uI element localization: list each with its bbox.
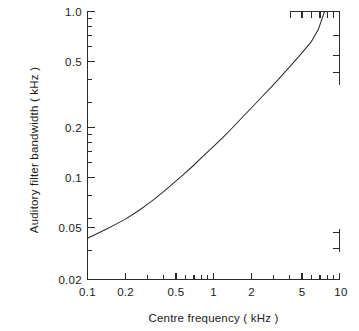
x-label-1: 1 [210,286,217,298]
x-label-5: 5 [299,286,306,298]
y-tick-labels: 1.0 0.5 0.2 0.1 0.05 0.02 [58,6,82,287]
chart-figure: 1.0 0.5 0.2 0.1 0.05 0.02 0.1 0.2 0.5 1 … [0,0,359,331]
y-axis-major-ticks [88,12,95,280]
y-label-0.2: 0.2 [65,122,82,134]
y-axis-minor-ticks [88,18,93,250]
data-series-group [88,12,325,239]
chart-svg: 1.0 0.5 0.2 0.1 0.05 0.02 0.1 0.2 0.5 1 … [0,0,359,331]
x-label-10: 10 [334,286,347,298]
x-axis-title: Centre frequency ( kHz ) [148,312,278,324]
x-label-0.2: 0.2 [117,286,134,298]
y-label-0.05: 0.05 [58,222,82,234]
x-label-0.5: 0.5 [168,286,185,298]
bandwidth-curve [88,12,325,239]
x-label-0.1: 0.1 [79,286,96,298]
y-label-0.1: 0.1 [65,172,82,184]
x-label-2: 2 [248,286,255,298]
y-label-0.02: 0.02 [58,274,82,286]
top-axis-ticks [291,12,340,19]
y-axis-title: Auditory filter bandwidth ( kHz ) [28,67,40,233]
x-tick-labels: 0.1 0.2 0.5 1 2 5 10 [79,286,348,298]
x-axis-major-ticks [88,273,340,280]
y-label-0.5: 0.5 [65,56,82,68]
plot-axes [87,11,340,280]
y-label-1.0: 1.0 [65,6,82,18]
